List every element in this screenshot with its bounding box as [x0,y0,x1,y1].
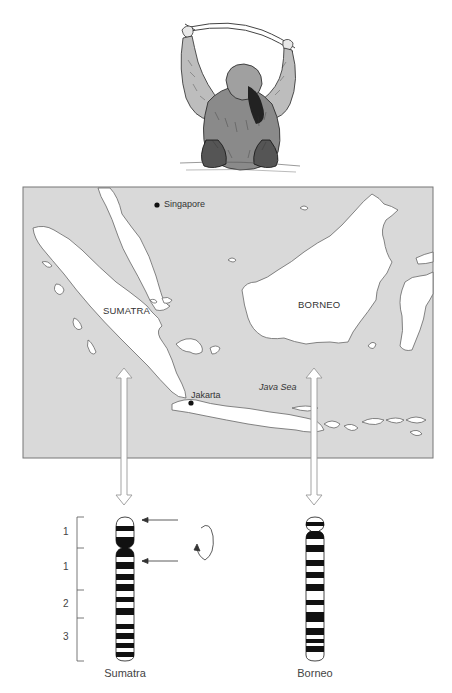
band-label-q1: 1 [63,562,69,572]
borneo-label: BORNEO [298,300,340,310]
sumatra-chromosome-label: Sumatra [104,668,146,679]
borneo-chromosome-label: Borneo [297,668,332,679]
band-label-q3: 3 [63,632,69,642]
singapore-label: Singapore [164,200,205,209]
sumatra-label: SUMATRA [103,306,150,316]
breakpoint-arrows [142,518,178,564]
borneo-chromosome [306,517,324,661]
inversion-circular-arrow-icon [194,525,213,560]
singapore-city-dot [154,202,159,207]
jakarta-label: Jakarta [191,391,221,400]
band-label-q2: 2 [63,599,69,609]
jakarta-city-dot [188,400,193,405]
band-bracket [77,517,84,661]
map-southeast-asia [0,0,452,693]
java-sea-label: Java Sea [259,383,297,392]
band-label-p1: 1 [63,527,69,537]
sumatra-chromosome [116,517,134,661]
